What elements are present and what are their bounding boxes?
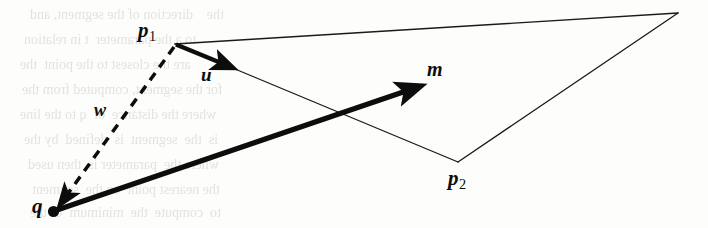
point-label-p2-subscript: 2 [459, 176, 466, 192]
vector-label-m: m [427, 58, 443, 81]
point-label-p1: p1 [138, 18, 156, 43]
vector-label-u: u [201, 64, 212, 86]
vector-label-w: w [94, 100, 106, 121]
point-label-p2-base: p [448, 166, 459, 190]
point-label-q: q [32, 194, 43, 219]
thin-line-apex-to-p2 [458, 13, 678, 162]
point-marker-q [48, 206, 59, 217]
vector-m-arrow [54, 89, 412, 211]
point-label-p1-subscript: 1 [149, 28, 156, 44]
point-label-p2: p2 [448, 166, 466, 191]
vector-u-arrow [176, 45, 226, 66]
thin-line-p1-to-apex [175, 13, 678, 44]
diagram-canvas [0, 0, 708, 228]
point-label-p1-base: p [138, 18, 149, 42]
vector-geometry-figure: the direction of the segment, and to a t… [0, 0, 708, 228]
